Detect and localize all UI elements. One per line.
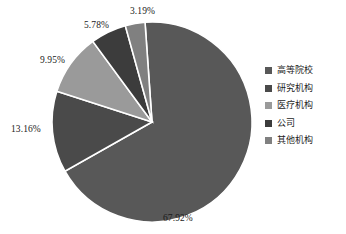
pie-label-3: 3.19%	[130, 6, 155, 16]
legend-item[interactable]: 公司	[265, 115, 343, 133]
legend-swatch-icon	[265, 85, 272, 92]
chart-legend: 高等院校研究机构医疗机构公司其他机构	[265, 62, 343, 150]
pie-label-5: 5.78%	[84, 20, 109, 30]
legend-item-label: 公司	[277, 119, 295, 128]
legend-item-label: 研究机构	[277, 84, 313, 93]
legend-item-label: 其他机构	[277, 136, 313, 145]
pie-label-67: 67.92%	[163, 213, 193, 223]
pie-slice-group	[52, 22, 252, 222]
legend-swatch-icon	[265, 67, 272, 74]
pie-label-13: 13.16%	[11, 124, 41, 134]
legend-item-label: 高等院校	[277, 66, 313, 75]
legend-item[interactable]: 医疗机构	[265, 97, 343, 115]
legend-item[interactable]: 研究机构	[265, 80, 343, 98]
legend-item[interactable]: 高等院校	[265, 62, 343, 80]
legend-swatch-icon	[265, 137, 272, 144]
legend-swatch-icon	[265, 102, 272, 109]
legend-swatch-icon	[265, 120, 272, 127]
legend-item-label: 医疗机构	[277, 101, 313, 110]
legend-item[interactable]: 其他机构	[265, 132, 343, 150]
pie-chart: 67.92% 13.16% 9.95% 5.78% 3.19% 高等院校研究机构…	[0, 0, 346, 234]
pie-label-9: 9.95%	[40, 55, 65, 65]
